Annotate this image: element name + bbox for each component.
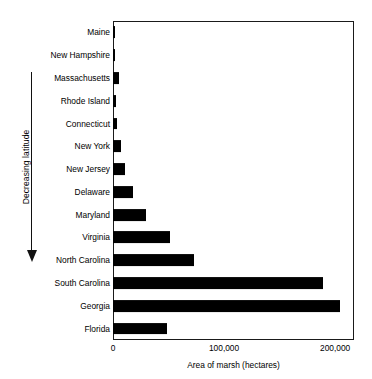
category-label: Virginia bbox=[0, 233, 110, 242]
category-label: Rhode Island bbox=[0, 96, 110, 105]
category-label: New Hampshire bbox=[0, 51, 110, 60]
category-label: New York bbox=[0, 142, 110, 151]
category-label: New Jersey bbox=[0, 165, 110, 174]
x-tick-label: 200,000 bbox=[320, 343, 350, 353]
x-tick-label: 0 bbox=[111, 343, 116, 353]
category-label: South Carolina bbox=[0, 279, 110, 288]
plot-area-frame bbox=[113, 21, 354, 340]
category-label: Connecticut bbox=[0, 119, 110, 128]
bar-chart-figure: Decreasing latitude MaineNew HampshireMa… bbox=[0, 0, 372, 379]
category-label: Maryland bbox=[0, 210, 110, 219]
category-label: Delaware bbox=[0, 187, 110, 196]
category-label: Maine bbox=[0, 28, 110, 37]
category-label: Massachusetts bbox=[0, 73, 110, 82]
x-tick-label: 100,000 bbox=[209, 343, 239, 353]
category-label: Florida bbox=[0, 324, 110, 333]
category-label: North Carolina bbox=[0, 256, 110, 265]
x-axis-title: Area of marsh (hectares) bbox=[113, 360, 354, 370]
category-label: Georgia bbox=[0, 301, 110, 310]
x-axis-ticks: 0100,000200,000 bbox=[113, 340, 354, 358]
category-axis-labels: MaineNew HampshireMassachusettsRhode Isl… bbox=[40, 21, 110, 340]
